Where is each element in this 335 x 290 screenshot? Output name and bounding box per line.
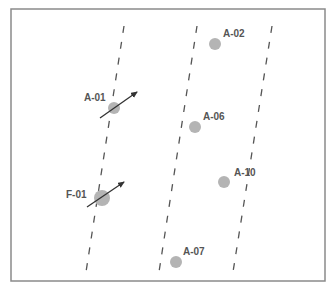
marker-dot-icon bbox=[189, 121, 201, 133]
lane-2-dashed-line bbox=[159, 26, 197, 272]
marker-label: A-01 bbox=[84, 92, 106, 103]
position-diagram: A-02A-01A-06A-10F-01A-07 bbox=[0, 0, 335, 290]
marker-a-07: A-07 bbox=[170, 246, 205, 268]
marker-dot-icon bbox=[170, 256, 182, 268]
marker-label: A-06 bbox=[203, 111, 225, 122]
marker-label: A-10 bbox=[234, 167, 256, 178]
marker-dot-icon bbox=[209, 38, 221, 50]
marker-a-02: A-02 bbox=[209, 28, 245, 50]
marker-a-06: A-06 bbox=[189, 111, 225, 133]
marker-a-10: A-10 bbox=[218, 167, 256, 188]
marker-dot-icon bbox=[218, 176, 230, 188]
lane-3-dashed-line bbox=[233, 26, 272, 272]
marker-label: A-07 bbox=[183, 246, 205, 257]
lane-1-dashed-line bbox=[86, 26, 124, 272]
markers: A-02A-01A-06A-10F-01A-07 bbox=[66, 28, 256, 268]
marker-a-01: A-01 bbox=[84, 92, 137, 118]
diagram-frame bbox=[11, 9, 325, 281]
lane-lines bbox=[86, 26, 272, 272]
marker-f-01: F-01 bbox=[66, 182, 124, 207]
marker-label: A-02 bbox=[223, 28, 245, 39]
marker-label: F-01 bbox=[66, 189, 87, 200]
